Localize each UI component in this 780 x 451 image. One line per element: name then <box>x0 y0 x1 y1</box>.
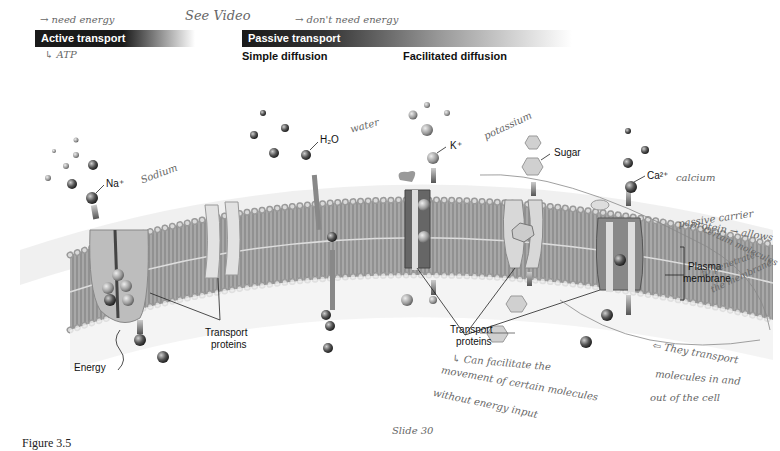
water-label: H₂O <box>320 134 339 146</box>
note-passive: → don't need energy <box>295 14 398 26</box>
active-transport-header: Active transport <box>35 30 195 47</box>
sodium-label: Na⁺ <box>106 178 124 190</box>
transport-proteins-left-label-1: Transport <box>205 327 247 339</box>
simple-diffusion-heading: Simple diffusion <box>242 50 328 62</box>
note-calcium: calcium <box>676 172 715 184</box>
note-active: → need energy <box>40 14 115 26</box>
note-slide: Slide 30 <box>392 425 433 437</box>
sugar-label: Sugar <box>554 147 581 159</box>
note-they-transport-3: out of the cell <box>650 392 720 404</box>
figure-caption: Figure 3.5 <box>22 436 71 451</box>
transport-proteins-mid-label-1: Transport <box>450 324 492 336</box>
note-atp: ↳ ATP <box>45 49 77 61</box>
facilitated-diffusion-heading: Facilitated diffusion <box>403 50 507 62</box>
transport-proteins-left-label-2: proteins <box>211 339 247 351</box>
energy-label: Energy <box>74 362 106 374</box>
potassium-label: K⁺ <box>450 140 462 152</box>
transport-proteins-mid-label-2: proteins <box>456 336 492 348</box>
passive-transport-header: Passive transport <box>242 30 572 47</box>
calcium-label: Ca²⁺ <box>647 170 668 182</box>
note-see-video: See Video <box>185 10 251 22</box>
